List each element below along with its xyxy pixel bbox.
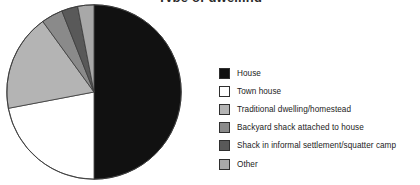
legend-swatch-house (219, 68, 230, 79)
legend-item[interactable]: Traditional dwelling/homestead (219, 100, 419, 118)
legend-swatch-informal-shack (219, 140, 230, 151)
legend-label: House (237, 69, 261, 78)
legend-item[interactable]: Other (219, 155, 419, 173)
legend-swatch-backyard-shack (219, 122, 230, 133)
chart-legend: House Town house Traditional dwelling/ho… (219, 64, 419, 173)
pie-chart-plot-area (5, 3, 183, 181)
legend-swatch-other (219, 159, 230, 170)
legend-swatch-town-house (219, 86, 230, 97)
legend-label: Backyard shack attached to house (237, 123, 364, 132)
chart-title: Type of dwelling (0, 0, 420, 2)
legend-label: Town house (237, 87, 281, 96)
legend-swatch-traditional-dwelling (219, 104, 230, 115)
legend-label: Other (237, 160, 258, 169)
legend-label: Traditional dwelling/homestead (237, 105, 351, 114)
pie-slice-group (7, 5, 181, 179)
legend-item[interactable]: Town house (219, 82, 419, 100)
pie-slice[interactable] (94, 5, 181, 179)
legend-label: Shack in informal settlement/squatter ca… (237, 141, 396, 150)
legend-item[interactable]: Backyard shack attached to house (219, 119, 419, 137)
legend-item[interactable]: House (219, 64, 419, 82)
legend-item[interactable]: Shack in informal settlement/squatter ca… (219, 137, 419, 155)
pie-chart-svg (5, 3, 183, 181)
pie-chart-figure: Type of dwelling House Town house Tradit… (0, 0, 420, 185)
